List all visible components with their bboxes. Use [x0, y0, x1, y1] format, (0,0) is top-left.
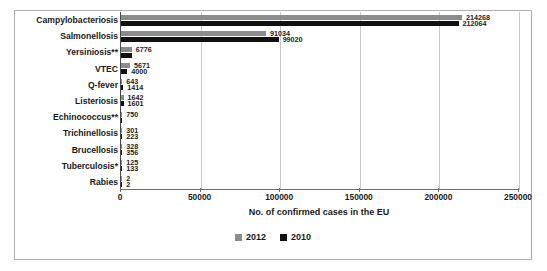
- category-label: Tuberculosis*: [14, 161, 118, 171]
- bar-item[interactable]: 2: [121, 176, 518, 181]
- category-label: Listeriosis: [14, 96, 118, 106]
- bar-2012[interactable]: [121, 144, 122, 149]
- x-tick-label: 200000: [424, 192, 452, 202]
- bar-2010[interactable]: [121, 69, 127, 74]
- bar-item[interactable]: 750: [121, 112, 518, 117]
- category-label: VTEC: [14, 64, 118, 74]
- category-axis-labels: CampylobacteriosisSalmonellosisYersinios…: [14, 12, 118, 190]
- category-label: Rabies: [14, 177, 118, 187]
- bar-2010[interactable]: [121, 166, 122, 171]
- bar-item[interactable]: 223: [121, 134, 518, 139]
- bar-value-label: 4000: [131, 68, 147, 75]
- bar-2010[interactable]: [121, 101, 124, 106]
- bar-item[interactable]: 91034: [121, 31, 518, 36]
- legend-swatch-icon: [280, 234, 287, 241]
- bar-2012[interactable]: [121, 15, 462, 20]
- bar-item[interactable]: 212064: [121, 21, 518, 26]
- bar-2012[interactable]: [121, 160, 122, 165]
- bar-2010[interactable]: [121, 150, 122, 155]
- bar-2012[interactable]: [121, 79, 122, 84]
- bar-2010[interactable]: [121, 37, 279, 42]
- bar-value-label: 1414: [127, 84, 143, 91]
- bar-group: 22: [121, 174, 518, 190]
- bar-2012[interactable]: [121, 128, 122, 133]
- bar-value-label: 133: [126, 165, 138, 172]
- bar-group: 6431414: [121, 77, 518, 93]
- bar-item[interactable]: 328: [121, 144, 518, 149]
- bar-item[interactable]: 4000: [121, 69, 518, 74]
- bar-item[interactable]: [121, 118, 518, 123]
- bar-item[interactable]: 133: [121, 166, 518, 171]
- bar-value-label: 212064: [463, 20, 487, 27]
- bar-group: 125133: [121, 158, 518, 174]
- bar-2012[interactable]: [121, 47, 132, 52]
- category-label: Salmonellosis: [14, 31, 118, 41]
- x-axis-line: [121, 189, 518, 190]
- category-label: Campylobacteriosis: [14, 15, 118, 25]
- bar-value-label: 223: [126, 133, 138, 140]
- x-axis-ticks: 050000100000150000200000250000: [120, 192, 518, 206]
- category-label: Yersiniosis**: [14, 47, 118, 57]
- legend-label: 2010: [291, 232, 311, 242]
- bar-2010[interactable]: [121, 118, 122, 123]
- bar-group: 9103499020: [121, 28, 518, 44]
- x-tick-label: 0: [118, 192, 123, 202]
- x-tick-label: 100000: [265, 192, 293, 202]
- bar-item[interactable]: 301: [121, 128, 518, 133]
- x-tick-label: 150000: [345, 192, 373, 202]
- bar-item[interactable]: 1601: [121, 101, 518, 106]
- bar-2010[interactable]: [121, 85, 123, 90]
- legend-item-2010[interactable]: 2010: [280, 232, 311, 242]
- bar-2012[interactable]: [121, 63, 130, 68]
- plot-area: 2142682120649103499020677656714000643141…: [120, 12, 518, 190]
- bar-value-label: 750: [126, 111, 138, 118]
- legend-label: 2012: [246, 232, 266, 242]
- chart-legend: 20122010: [14, 232, 532, 242]
- bar-item[interactable]: 2: [121, 182, 518, 187]
- bar-value-label: 2: [126, 181, 130, 188]
- gridline: [519, 12, 520, 190]
- bar-2010[interactable]: [121, 53, 132, 58]
- category-label: Brucellosis: [14, 145, 118, 155]
- bar-2012[interactable]: [121, 31, 266, 36]
- plot-inner: 2142682120649103499020677656714000643141…: [120, 12, 518, 190]
- x-tick-label: 50000: [188, 192, 211, 202]
- bar-item[interactable]: [121, 53, 518, 58]
- bar-group: 6776: [121, 44, 518, 60]
- bar-item[interactable]: 99020: [121, 37, 518, 42]
- bar-group: 750: [121, 109, 518, 125]
- bar-value-label: 6776: [136, 46, 152, 53]
- bar-2012[interactable]: [121, 112, 122, 117]
- bar-value-label: 99020: [283, 36, 303, 43]
- bar-value-label: 356: [126, 149, 138, 156]
- chart-figure: CampylobacteriosisSalmonellosisYersinios…: [0, 0, 547, 271]
- bar-rows: 2142682120649103499020677656714000643141…: [121, 12, 518, 190]
- bar-item[interactable]: 1414: [121, 85, 518, 90]
- bar-2012[interactable]: [121, 176, 122, 181]
- x-axis-title: No. of confirmed cases in the EU: [120, 207, 518, 217]
- bar-item[interactable]: 1642: [121, 95, 518, 100]
- category-label: Q-fever: [14, 80, 118, 90]
- bar-group: 214268212064: [121, 12, 518, 28]
- bar-item[interactable]: 214268: [121, 15, 518, 20]
- bar-item[interactable]: 5671: [121, 63, 518, 68]
- bar-2010[interactable]: [121, 21, 459, 26]
- category-label: Trichinellosis: [14, 128, 118, 138]
- bar-group: 301223: [121, 125, 518, 141]
- bar-item[interactable]: 125: [121, 160, 518, 165]
- category-label: Echinococcus**: [14, 112, 118, 122]
- bar-group: 16421601: [121, 93, 518, 109]
- bar-group: 56714000: [121, 61, 518, 77]
- bar-group: 328356: [121, 141, 518, 157]
- bar-2010[interactable]: [121, 134, 122, 139]
- bar-item[interactable]: 356: [121, 150, 518, 155]
- bar-item[interactable]: 6776: [121, 47, 518, 52]
- x-tick-label: 250000: [504, 192, 532, 202]
- bar-2012[interactable]: [121, 95, 124, 100]
- legend-swatch-icon: [235, 234, 242, 241]
- bar-2010[interactable]: [121, 182, 122, 187]
- bar-value-label: 1601: [128, 100, 144, 107]
- bar-item[interactable]: 643: [121, 79, 518, 84]
- legend-item-2012[interactable]: 2012: [235, 232, 266, 242]
